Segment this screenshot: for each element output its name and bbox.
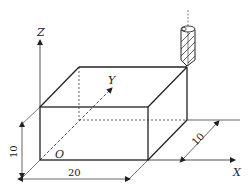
y-axis bbox=[40, 88, 112, 160]
extension-line-top-left bbox=[20, 107, 40, 126]
length-dimension-label: 20 bbox=[68, 167, 81, 178]
width-dimension-label: 10 bbox=[190, 131, 207, 148]
z-axis-label: Z bbox=[36, 26, 45, 39]
extension-line-bottom-right bbox=[128, 160, 148, 180]
x-axis-label: X bbox=[232, 166, 242, 179]
y-axis-label: Y bbox=[108, 74, 117, 87]
origin-label: O bbox=[55, 148, 64, 161]
cutting-tool bbox=[181, 10, 195, 66]
workpiece-diagram: Z X Y O 10 20 10 bbox=[0, 0, 251, 192]
height-dimension-label: 10 bbox=[8, 145, 19, 158]
extension-line-bottom-left bbox=[20, 160, 40, 180]
